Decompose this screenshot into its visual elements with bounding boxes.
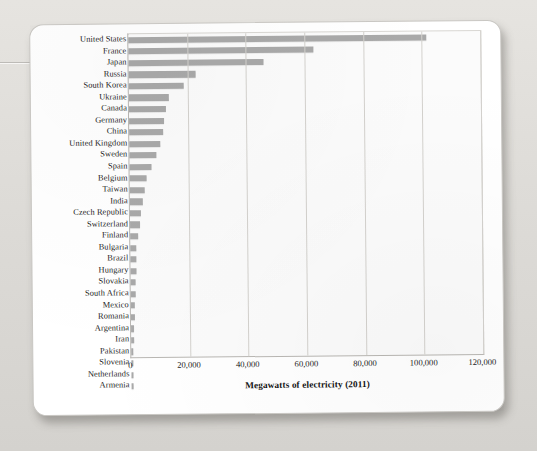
category-label: Argentina bbox=[43, 322, 129, 334]
category-label: India bbox=[42, 195, 128, 207]
category-label: Romania bbox=[43, 310, 129, 322]
category-label: South Korea bbox=[41, 80, 127, 92]
category-label: Netherlands bbox=[43, 368, 129, 380]
bar bbox=[131, 291, 136, 297]
bar-chart: United StatesFranceJapanRussiaSouth Kore… bbox=[30, 21, 504, 415]
x-tick-label: 0 bbox=[128, 360, 132, 370]
category-label: Finland bbox=[42, 230, 128, 242]
category-label: Iran bbox=[43, 334, 129, 346]
category-label: Spain bbox=[41, 160, 127, 172]
figure-card: United StatesFranceJapanRussiaSouth Kore… bbox=[29, 20, 505, 417]
bar bbox=[128, 47, 313, 55]
category-label: Armenia bbox=[44, 380, 130, 392]
bar bbox=[129, 117, 165, 124]
bar bbox=[129, 94, 170, 101]
bar bbox=[131, 303, 135, 309]
category-label: Taiwan bbox=[42, 183, 128, 195]
bar bbox=[129, 71, 196, 78]
bar bbox=[130, 210, 141, 216]
bar bbox=[131, 349, 133, 355]
bar bbox=[130, 175, 147, 181]
bar bbox=[130, 233, 138, 239]
bar bbox=[129, 129, 163, 136]
category-axis-labels: United StatesFranceJapanRussiaSouth Kore… bbox=[40, 33, 129, 392]
bar bbox=[128, 59, 263, 66]
category-label: Bulgaria bbox=[42, 241, 128, 253]
bar bbox=[130, 187, 145, 193]
bar bbox=[131, 337, 134, 343]
category-label: France bbox=[40, 45, 126, 57]
bar bbox=[128, 34, 426, 43]
category-label: United States bbox=[40, 33, 126, 45]
category-label: Switzerland bbox=[42, 218, 128, 230]
bar bbox=[129, 164, 151, 170]
bar bbox=[131, 279, 136, 285]
page-background: United StatesFranceJapanRussiaSouth Kore… bbox=[0, 0, 537, 451]
bar bbox=[131, 326, 134, 332]
x-tick-label: 20,000 bbox=[177, 360, 201, 370]
bar bbox=[129, 83, 184, 90]
bar bbox=[131, 314, 135, 320]
plot-area bbox=[127, 30, 484, 359]
bar bbox=[130, 256, 136, 262]
category-label: Slovenia bbox=[43, 357, 129, 369]
bar bbox=[130, 245, 136, 251]
category-label: Slovakia bbox=[43, 276, 129, 288]
bar bbox=[130, 222, 140, 228]
category-label: Sweden bbox=[41, 149, 127, 161]
category-label: Czech Republic bbox=[42, 207, 128, 219]
x-tick-label: 120,000 bbox=[468, 357, 496, 367]
x-tick-label: 100,000 bbox=[410, 357, 438, 367]
bar bbox=[129, 152, 156, 158]
category-label: Canada bbox=[41, 103, 127, 115]
category-label: Hungary bbox=[42, 264, 128, 276]
x-tick-label: 80,000 bbox=[353, 358, 377, 368]
x-tick-label: 60,000 bbox=[295, 359, 319, 369]
category-label: Ukraine bbox=[41, 91, 127, 103]
category-label: South Africa bbox=[43, 287, 129, 299]
bar bbox=[130, 268, 136, 274]
category-label: Japan bbox=[40, 56, 126, 68]
category-label: Germany bbox=[41, 114, 127, 126]
category-label: Russia bbox=[41, 68, 127, 80]
bar bbox=[130, 199, 143, 205]
category-label: China bbox=[41, 126, 127, 138]
category-label: United Kingdom bbox=[41, 137, 127, 149]
category-label: Belgium bbox=[42, 172, 128, 184]
category-label: Mexico bbox=[43, 299, 129, 311]
bar bbox=[129, 106, 166, 113]
bar bbox=[129, 141, 160, 147]
category-label: Pakistan bbox=[43, 345, 129, 357]
x-tick-label: 40,000 bbox=[236, 359, 260, 369]
category-label: Brazil bbox=[42, 253, 128, 265]
